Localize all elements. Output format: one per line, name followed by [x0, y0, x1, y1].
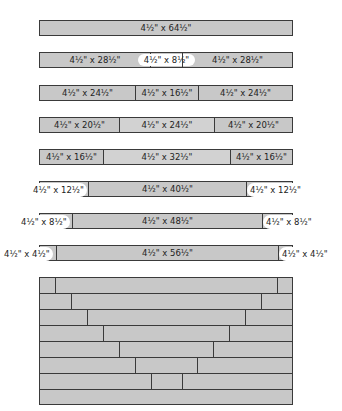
seam	[119, 342, 120, 357]
quilt-row-3	[40, 310, 292, 326]
strip-row-6: 4½" x 40½" 4½" x 12½" 4½" x 12½"	[39, 181, 293, 197]
piece-label-left: 4½" x 8½"	[18, 215, 70, 229]
piece-label-right: 4½" x 4½"	[279, 247, 331, 261]
piece-16-5-left: 4½" x 16½"	[40, 150, 103, 164]
piece-label: 4½" x 20½"	[54, 120, 105, 130]
piece-20-5-right: 4½" x 20½"	[214, 118, 292, 132]
piece-56-5-center: 4½" x 56½"	[56, 246, 278, 260]
seam	[135, 358, 136, 373]
seam	[71, 294, 72, 309]
seam	[182, 374, 183, 389]
piece-24-5-right: 4½" x 24½"	[198, 86, 292, 100]
assembled-quilt	[39, 277, 293, 405]
piece-label: 4½" x 24½"	[220, 88, 271, 98]
piece-label-right: 4½" x 12½"	[247, 183, 304, 197]
quilt-row-6	[40, 358, 292, 374]
seam	[261, 294, 262, 309]
quilt-row-8	[40, 390, 292, 406]
piece-label: 4½" x 48½"	[142, 216, 193, 226]
strip-row-8: 4½" x 56½" 4½" x 4½" 4½" x 4½"	[39, 245, 293, 261]
piece-16-5-right: 4½" x 16½"	[230, 150, 292, 164]
seam	[277, 278, 278, 293]
piece-16-5-center: 4½" x 16½"	[135, 86, 198, 100]
piece-8-5-center: 4½" x 8½"	[150, 53, 182, 67]
piece-label: 4½" x 64½"	[141, 23, 192, 33]
strip-row-5: 4½" x 16½" 4½" x 32½" 4½" x 16½"	[39, 149, 293, 165]
piece-label: 4½" x 24½"	[142, 120, 193, 130]
strip-row-7: 4½" x 48½" 4½" x 8½" 4½" x 8½"	[39, 213, 293, 229]
piece-label: 4½" x 16½"	[46, 152, 97, 162]
piece-label: 4½" x 24½"	[62, 88, 113, 98]
strip-row-2: 4½" x 28½" 4½" x 8½" 4½" x 28½"	[39, 52, 293, 68]
quilt-row-2	[40, 294, 292, 310]
strip-row-3: 4½" x 24½" 4½" x 16½" 4½" x 24½"	[39, 85, 293, 101]
piece-label: 4½" x 28½"	[212, 55, 263, 65]
strip-row-4: 4½" x 20½" 4½" x 24½" 4½" x 20½"	[39, 117, 293, 133]
piece-24-5-left: 4½" x 24½"	[40, 86, 135, 100]
piece-28-5-right: 4½" x 28½"	[182, 53, 292, 67]
seam	[197, 358, 198, 373]
quilt-row-5	[40, 342, 292, 358]
piece-label-left: 4½" x 4½"	[1, 247, 53, 261]
piece-label-right: 4½" x 8½"	[263, 215, 315, 229]
seam	[87, 310, 88, 325]
quilt-row-1	[40, 278, 292, 294]
piece-32-5-center: 4½" x 32½"	[103, 150, 230, 164]
seam	[55, 278, 56, 293]
piece-48-5-center: 4½" x 48½"	[72, 214, 262, 228]
piece-label: 4½" x 56½"	[142, 248, 193, 258]
quilt-row-7	[40, 374, 292, 390]
piece-40-5-center: 4½" x 40½"	[88, 182, 246, 196]
piece-label: 4½" x 40½"	[142, 184, 193, 194]
piece-label-left: 4½" x 12½"	[30, 183, 87, 197]
seam	[103, 326, 104, 341]
piece-64-5: 4½" x 64½"	[40, 21, 292, 35]
seam	[229, 326, 230, 341]
seam	[213, 342, 214, 357]
seam	[151, 374, 152, 389]
piece-20-5-left: 4½" x 20½"	[40, 118, 119, 132]
strip-row-1: 4½" x 64½"	[39, 20, 293, 36]
piece-label: 4½" x 16½"	[236, 152, 287, 162]
piece-label: 4½" x 32½"	[142, 152, 193, 162]
piece-label: 4½" x 16½"	[142, 88, 193, 98]
piece-label: 4½" x 28½"	[70, 55, 121, 65]
seam	[245, 310, 246, 325]
piece-24-5-center: 4½" x 24½"	[119, 118, 214, 132]
piece-label: 4½" x 20½"	[228, 120, 279, 130]
piece-28-5-left: 4½" x 28½"	[40, 53, 150, 67]
quilt-row-4	[40, 326, 292, 342]
